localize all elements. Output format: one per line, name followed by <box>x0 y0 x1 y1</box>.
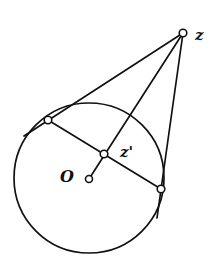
point-z-prime <box>100 150 108 158</box>
tangent-diagram: z z' O <box>0 0 212 274</box>
label-z-prime: z' <box>119 143 133 161</box>
point-O <box>86 176 93 183</box>
label-z: z <box>194 26 204 44</box>
point-tangent-right <box>157 185 165 193</box>
point-tangent-left <box>44 116 52 124</box>
point-z <box>179 29 187 37</box>
label-O: O <box>60 167 74 186</box>
